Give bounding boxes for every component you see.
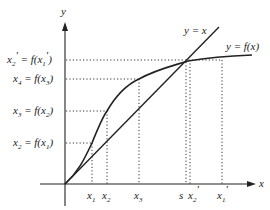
xtick-x3: x3 [133,189,143,204]
vertical-guides [92,60,222,184]
xtick-x1: x1 [86,189,95,204]
horizontal-guides [66,60,222,143]
function-curve [65,55,252,184]
y-axis-arrow-icon [62,22,68,31]
y-axis-label: y [60,5,66,17]
ylabel-x2p: x2' = f(x1') [6,49,52,68]
x-axis-label: x [258,177,264,189]
xtick-x2: x2 [101,189,111,204]
y-level-labels: x2' = f(x1') x4 = f(x3) x3 = f(x2) x2 = … [6,49,53,151]
x-tick-labels: x1 x2 x3 s x2' x1' [86,183,228,204]
fixed-point-diagram: y = x y = f(x) y x x2' = f(x1') x4 = f(x… [0,0,270,210]
identity-label: y = x [183,24,207,36]
ylabel-x2: x2 = f(x1) [12,136,53,151]
ylabel-x3: x3 = f(x2) [12,104,53,119]
axes [40,28,250,206]
x-axis-arrow-icon [247,181,256,187]
function-label: y = f(x) [225,40,259,53]
xtick-x2p: x2' [187,183,199,204]
identity-line [65,27,219,184]
xtick-x1p: x1' [216,183,228,204]
ylabel-x4: x4 = f(x3) [12,72,53,87]
xtick-s: s [179,189,183,201]
